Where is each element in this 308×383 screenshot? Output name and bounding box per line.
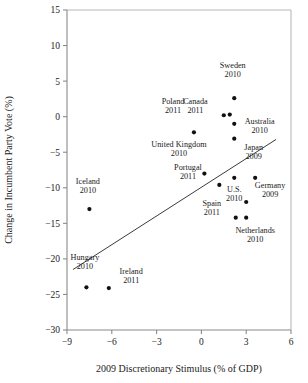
y-tick-label: 5: [55, 77, 60, 87]
point-label-year: 2010: [77, 262, 93, 271]
x-axis-title: 2009 Discretionary Stimulus (% of GDP): [96, 363, 262, 375]
data-point: [228, 112, 232, 116]
y-tick-label: −5: [50, 148, 60, 158]
y-tick-label: 0: [55, 112, 60, 122]
chart-canvas: −30−25−20−15−10−5051015 −9−6−3036 Icelan…: [0, 0, 308, 383]
point-label-year: 2010: [80, 186, 96, 195]
point-label-year: 2010: [171, 149, 187, 158]
data-point: [222, 113, 226, 117]
data-point: [232, 96, 236, 100]
point-label-country: Portugal: [174, 163, 202, 172]
data-point: [234, 216, 238, 220]
y-tick-label: −30: [45, 325, 60, 335]
point-label-country: U.S.: [227, 185, 242, 194]
point-label-country: Netherlands: [235, 226, 275, 235]
data-point: [232, 176, 236, 180]
x-tick-label: −9: [62, 337, 72, 347]
y-tick-label: −10: [45, 183, 60, 193]
point-label-year: 2009: [262, 190, 278, 199]
point-label-country: Spain: [203, 199, 222, 208]
data-point: [244, 200, 248, 204]
point-label-country: Canada: [183, 97, 208, 106]
point-label-country: Germany: [255, 181, 286, 190]
point-label-country: Iceland: [76, 177, 100, 186]
y-tick-label: −15: [45, 219, 60, 229]
y-tick-label: 15: [51, 5, 61, 15]
point-label-year: 2011: [180, 172, 196, 181]
x-tick-label: 3: [244, 337, 249, 347]
point-label-year: 2011: [123, 276, 139, 285]
data-point: [253, 176, 257, 180]
scatter-chart-figure: −30−25−20−15−10−5051015 −9−6−3036 Icelan…: [0, 0, 308, 383]
point-label-country: United Kingdom: [151, 140, 207, 149]
point-label-country: Poland: [162, 97, 185, 106]
point-labels-group: Iceland2010Hungary2010Ireland2011Poland2…: [71, 61, 287, 285]
y-tick-label: −25: [45, 290, 60, 300]
point-label-year: 2011: [204, 208, 220, 217]
y-tick-label: 10: [51, 41, 61, 51]
point-label-year: 2011: [187, 106, 203, 115]
y-axis-ticks: −30−25−20−15−10−5051015: [45, 5, 67, 335]
point-label-country: Japan: [244, 143, 263, 152]
data-point: [232, 122, 236, 126]
x-tick-label: −3: [152, 337, 162, 347]
point-label-year: 2010: [226, 194, 242, 203]
y-tick-label: −20: [45, 254, 60, 264]
data-point: [244, 216, 248, 220]
data-point: [232, 137, 236, 141]
point-label-year: 2010: [225, 70, 241, 79]
x-tick-label: −6: [107, 337, 117, 347]
point-label-year: 2010: [247, 235, 263, 244]
data-point: [107, 286, 111, 290]
data-point: [87, 207, 91, 211]
data-point: [84, 285, 88, 289]
point-label-year: 2009: [245, 152, 261, 161]
x-tick-label: 6: [289, 337, 294, 347]
point-label-country: Australia: [245, 117, 275, 126]
data-point: [192, 130, 196, 134]
point-label-country: Hungary: [71, 253, 101, 262]
y-axis-title: Change in Incumbent Party Vote (%): [3, 96, 15, 244]
x-tick-label: 0: [199, 337, 204, 347]
data-point: [202, 171, 206, 175]
x-axis-ticks: −9−6−3036: [62, 330, 294, 347]
point-label-year: 2011: [165, 106, 181, 115]
point-label-country: Ireland: [120, 267, 143, 276]
data-point: [217, 183, 221, 187]
point-label-year: 2010: [251, 126, 267, 135]
point-label-country: Sweden: [220, 61, 246, 70]
